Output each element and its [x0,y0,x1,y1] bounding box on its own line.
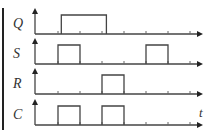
signal-label: Q [13,16,23,31]
pulse [61,15,106,34]
signal-row-c: C [13,99,203,128]
y-axis-arrow-icon [32,99,38,105]
time-axis-arrow-icon [197,91,203,97]
signal-row-r: R [12,68,203,97]
pulse [58,45,80,64]
y-axis-arrow-icon [32,38,38,44]
signal-label: S [13,46,20,61]
time-axis-arrow-icon [197,31,203,37]
signal-label: R [12,76,22,91]
pulse [146,45,168,64]
signal-label: C [13,107,23,122]
left-border-bar [2,8,4,130]
pulse [102,106,124,125]
y-axis-arrow-icon [32,8,38,14]
y-axis-arrow-icon [32,68,38,74]
time-axis-arrow-icon [197,122,203,128]
timing-diagram: QSRC t [0,0,223,137]
time-axis-arrow-icon [197,61,203,67]
signal-row-q: Q [13,8,203,37]
time-axis-label: t [199,105,203,120]
pulse [58,106,80,125]
pulse [102,75,124,94]
signal-row-s: S [13,38,203,67]
